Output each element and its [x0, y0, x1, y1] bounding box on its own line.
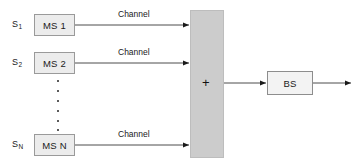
source-label-1-text: S [12, 19, 18, 29]
mobile-station-label-2: MS 2 [43, 58, 66, 69]
diagram-canvas: S1 S2 SN MS 1 MS 2 MS N Channel Channel … [0, 0, 363, 167]
ellipsis-dot [57, 129, 59, 131]
combiner-plus-icon: + [202, 76, 210, 89]
source-label-n: SN [12, 139, 23, 149]
ellipsis-dot [57, 80, 59, 82]
channel-label-3: Channel [118, 129, 150, 139]
ellipsis-dot [57, 100, 59, 102]
base-station-box[interactable]: BS [267, 71, 313, 95]
ellipsis-dot [57, 90, 59, 92]
mobile-station-box-1[interactable]: MS 1 [34, 14, 75, 36]
mobile-station-label-n: MS N [42, 140, 67, 151]
source-label-1: S1 [12, 19, 22, 29]
base-station-label: BS [283, 78, 296, 89]
channel-label-1: Channel [118, 9, 150, 19]
source-label-2-text: S [12, 57, 18, 67]
mobile-station-box-n[interactable]: MS N [34, 134, 75, 156]
source-label-n-text: S [12, 139, 18, 149]
mobile-station-label-1: MS 1 [43, 20, 66, 31]
channel-label-2: Channel [118, 47, 150, 57]
mobile-station-box-2[interactable]: MS 2 [34, 52, 75, 74]
ellipsis-dot [57, 120, 59, 122]
ellipsis-dot [57, 110, 59, 112]
source-label-2: S2 [12, 57, 22, 67]
source-label-2-sub: 2 [19, 61, 23, 68]
source-label-1-sub: 1 [19, 23, 23, 30]
source-label-n-sub: N [19, 143, 24, 150]
